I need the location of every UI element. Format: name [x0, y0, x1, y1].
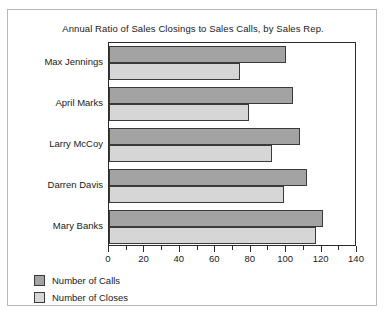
legend-swatch-closes — [34, 292, 45, 303]
bar-group — [109, 128, 355, 162]
axis-tick-label: 120 — [313, 253, 329, 264]
bar-calls — [109, 87, 293, 104]
bar-calls — [109, 169, 307, 186]
bar-group — [109, 46, 355, 80]
legend-swatch-calls — [34, 275, 45, 286]
category-label: April Marks — [11, 97, 103, 108]
axis-tick-label: 20 — [138, 253, 149, 264]
axis-tick-minor — [197, 246, 198, 250]
bar-calls — [109, 46, 286, 63]
axis-tick-label: 40 — [174, 253, 185, 264]
legend-item-calls: Number of Calls — [34, 273, 128, 288]
bar-group — [109, 210, 355, 244]
axis-tick-major — [143, 246, 144, 252]
axis-tick-major — [321, 246, 322, 252]
legend-item-closes: Number of Closes — [34, 290, 128, 305]
bars-layer — [109, 43, 355, 245]
chart-legend: Number of Calls Number of Closes — [34, 273, 128, 307]
axis-tick-minor — [232, 246, 233, 250]
axis-tick-minor — [303, 246, 304, 250]
bar-group — [109, 169, 355, 203]
bar-calls — [109, 128, 300, 145]
axis-tick-label: 140 — [348, 253, 364, 264]
bar-closes — [109, 186, 284, 203]
bar-group — [109, 87, 355, 121]
axis-tick-major — [179, 246, 180, 252]
bar-calls — [109, 210, 323, 227]
axis-tick-label: 80 — [244, 253, 255, 264]
axis-tick-major — [356, 246, 357, 252]
plot-area — [108, 42, 356, 246]
legend-label-calls: Number of Calls — [52, 275, 120, 286]
category-label: Max Jennings — [11, 56, 103, 67]
category-label: Darren Davis — [11, 179, 103, 190]
axis-tick-major — [214, 246, 215, 252]
axis-tick-minor — [338, 246, 339, 250]
axis-tick-label: 60 — [209, 253, 220, 264]
chart-card: Annual Ratio of Sales Closings to Sales … — [7, 9, 377, 306]
axis-tick-minor — [267, 246, 268, 250]
chart-title: Annual Ratio of Sales Closings to Sales … — [8, 23, 378, 34]
axis-tick-label: 100 — [277, 253, 293, 264]
axis-tick-major — [108, 246, 109, 252]
axis-tick-major — [250, 246, 251, 252]
bar-closes — [109, 227, 316, 244]
category-axis-labels: Max JenningsApril MarksLarry McCoyDarren… — [8, 42, 103, 246]
bar-closes — [109, 104, 249, 121]
category-label: Mary Banks — [11, 220, 103, 231]
axis-tick-minor — [161, 246, 162, 250]
axis-tick-minor — [126, 246, 127, 250]
legend-label-closes: Number of Closes — [52, 292, 128, 303]
bar-closes — [109, 145, 272, 162]
bar-closes — [109, 63, 240, 80]
value-axis: 020406080100120140 — [108, 246, 356, 272]
axis-tick-major — [285, 246, 286, 252]
category-label: Larry McCoy — [11, 138, 103, 149]
axis-tick-label: 0 — [105, 253, 110, 264]
